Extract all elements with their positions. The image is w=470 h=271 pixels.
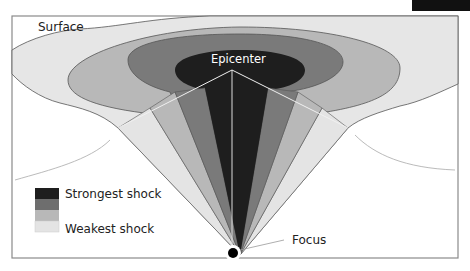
- legend-swatch-strong: [35, 199, 59, 210]
- epicenter-label: Epicenter: [211, 52, 266, 66]
- legend-label-weakest: Weakest shock: [65, 222, 154, 236]
- surface-label: Surface: [38, 20, 84, 34]
- focus-label: Focus: [292, 233, 326, 247]
- legend-swatch-strongest: [35, 188, 59, 199]
- legend-swatch-weakest: [35, 221, 59, 232]
- legend-swatch-weak: [35, 210, 59, 221]
- earthquake-diagram: Surface Epicenter Focus Strongest shock …: [0, 0, 470, 271]
- focus-point: [228, 248, 238, 258]
- legend-label-strongest: Strongest shock: [65, 187, 162, 201]
